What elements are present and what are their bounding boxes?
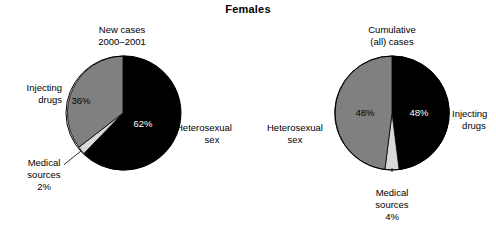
right-label-injecting-line2: drugs [452,120,496,132]
left-value-injecting: 36% [64,95,98,106]
left-pie-svg [64,54,182,172]
left-label-heterosexual-line1: Heterosexual [176,122,248,134]
left-label-injecting-line2: drugs [2,94,62,106]
figure-title: Females [0,3,496,15]
right-value-injecting: 48% [402,107,436,118]
right-label-heterosexual-line1: Heterosexual [258,122,332,134]
left-label-medical-value: 2% [14,181,74,193]
right-chart-title-line2: (all) cases [342,36,442,48]
right-label-heterosexual-line2: sex [258,134,332,146]
right-label-medical-value: 4% [362,211,422,223]
left-value-heterosexual: 62% [126,118,160,129]
right-chart-title-line1: Cumulative [342,24,442,36]
right-label-injecting-line1: Injecting [452,108,496,120]
left-label-heterosexual-line2: sex [176,134,248,146]
pie-chart-figure: Females New cases 2000–2001 36% 62% Inje… [0,0,496,225]
left-chart-title-line2: 2000–2001 [72,36,172,48]
right-label-medical-line2: sources [362,199,422,211]
left-label-injecting-line1: Injecting [2,82,62,94]
left-label-medical-line2: sources [14,169,74,181]
left-label-medical-line1: Medical [14,157,74,169]
left-chart-title-line1: New cases [72,24,172,36]
left-pie [64,54,182,172]
right-label-medical-line1: Medical [362,187,422,199]
right-value-heterosexual: 48% [348,107,382,118]
